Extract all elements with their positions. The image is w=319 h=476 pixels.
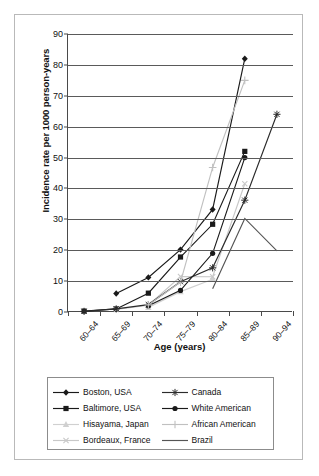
y-tick-mark	[64, 157, 68, 158]
legend-label: Brazil	[192, 435, 213, 446]
data-point	[242, 181, 247, 186]
legend-item[interactable]: Canada	[161, 387, 270, 398]
gridline	[68, 65, 293, 66]
legend-item[interactable]: Hisayama, Japan	[52, 419, 161, 430]
x-tick-label: 80–84	[206, 319, 229, 343]
x-axis-title: Age (years)	[67, 341, 292, 352]
gridline	[68, 34, 293, 35]
legend-item[interactable]: Boston, USA	[52, 387, 161, 398]
figure-root: Incidence rate per 1000 person-years 010…	[0, 0, 319, 476]
legend-label: African American	[192, 419, 256, 430]
legend-item[interactable]: Bordeaux, France	[52, 435, 161, 446]
series-2	[81, 149, 247, 314]
x-tick-mark	[68, 311, 69, 316]
legend-label: Bordeaux, France	[83, 435, 151, 446]
y-tick-label: 90	[53, 29, 63, 39]
x-tick-label: 70–74	[142, 319, 165, 343]
y-tick-mark	[64, 219, 68, 220]
gridline	[68, 96, 293, 97]
data-point	[146, 291, 151, 296]
data-point	[210, 251, 215, 256]
data-point	[113, 305, 120, 312]
legend-item[interactable]: African American	[161, 419, 270, 430]
data-point	[209, 164, 217, 172]
gridline	[68, 127, 293, 128]
x-tick-label: 65–69	[109, 319, 132, 343]
legend-key-circle-icon	[161, 403, 189, 414]
x-tick-mark	[164, 311, 165, 316]
legend-item[interactable]: White American	[161, 403, 270, 414]
y-tick-label: 40	[53, 183, 63, 193]
data-point	[80, 308, 87, 315]
y-tick-label: 10	[53, 276, 63, 286]
plot-area: 010203040506070809060–6465–6970–7475–798…	[67, 34, 292, 312]
series-line	[84, 151, 245, 311]
series-layer	[68, 34, 293, 312]
data-point	[178, 288, 183, 293]
x-tick-mark	[132, 311, 133, 316]
y-tick-mark	[64, 126, 68, 127]
data-point	[241, 77, 249, 85]
series-1	[113, 56, 248, 297]
series-8	[213, 218, 277, 288]
legend-key-square-icon	[52, 403, 80, 414]
y-tick-mark	[64, 64, 68, 65]
legend-item[interactable]: Baltimore, USA	[52, 403, 161, 414]
legend-key-diamond-icon	[52, 387, 80, 398]
gridline	[68, 219, 293, 220]
y-axis-title: Incidence rate per 1000 person-years	[40, 63, 51, 213]
legend-key-none-icon	[161, 435, 189, 446]
data-point	[113, 290, 119, 296]
x-tick-mark	[261, 311, 262, 316]
y-tick-label: 30	[53, 214, 63, 224]
chart-legend: Boston, USACanadaBaltimore, USAWhite Ame…	[47, 377, 274, 450]
y-tick-mark	[64, 250, 68, 251]
data-point	[241, 197, 248, 204]
y-tick-label: 80	[53, 60, 63, 70]
legend-item[interactable]: Brazil	[161, 435, 270, 446]
y-tick-label: 50	[53, 153, 63, 163]
data-point	[209, 264, 216, 271]
y-tick-mark	[64, 188, 68, 189]
legend-key-triangle-icon	[52, 419, 80, 430]
x-tick-mark	[197, 311, 198, 316]
x-tick-label: 90–94	[270, 319, 293, 343]
x-tick-label: 75–79	[174, 319, 197, 343]
y-tick-label: 0	[58, 307, 63, 317]
data-point	[178, 254, 183, 259]
data-point	[210, 222, 215, 227]
x-tick-mark	[229, 311, 230, 316]
x-tick-label: 85–89	[238, 319, 261, 343]
legend-label: White American	[192, 403, 252, 414]
legend-key-plus-icon	[161, 419, 189, 430]
y-tick-label: 60	[53, 122, 63, 132]
data-point	[242, 56, 248, 62]
legend-label: Boston, USA	[83, 387, 132, 398]
data-point	[242, 149, 247, 154]
gridline	[68, 188, 293, 189]
gridline	[68, 158, 293, 159]
legend-label: Hisayama, Japan	[83, 419, 149, 430]
y-tick-label: 20	[53, 245, 63, 255]
line-chart: Incidence rate per 1000 person-years 010…	[14, 14, 303, 364]
gridline	[68, 250, 293, 251]
y-tick-mark	[64, 34, 68, 35]
x-tick-mark	[293, 311, 294, 316]
y-tick-mark	[64, 281, 68, 282]
series-line	[213, 218, 277, 288]
x-tick-mark	[100, 311, 101, 316]
y-tick-mark	[64, 95, 68, 96]
legend-key-cross-x-icon	[52, 435, 80, 446]
legend-label: Canada	[192, 387, 222, 398]
gridline	[68, 281, 293, 282]
y-tick-label: 70	[53, 91, 63, 101]
legend-label: Baltimore, USA	[83, 403, 141, 414]
data-point	[273, 111, 280, 118]
legend-key-star-icon	[161, 387, 189, 398]
x-tick-label: 60–64	[77, 319, 100, 343]
